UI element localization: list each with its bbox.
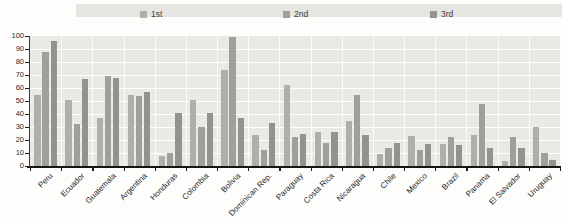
y-axis-tick-label: 10 bbox=[4, 149, 24, 157]
category-gridline bbox=[435, 36, 436, 166]
category-gridline bbox=[373, 36, 374, 166]
bar-2nd-el-salvador bbox=[510, 137, 516, 166]
x-axis-category-label: Honduras bbox=[150, 172, 180, 202]
x-axis-category-label: Panama bbox=[465, 172, 492, 199]
x-axis-tick-mark bbox=[466, 168, 467, 171]
bar-1st-argentina bbox=[128, 95, 134, 167]
x-axis-tick-mark bbox=[124, 168, 125, 171]
category-gridline bbox=[92, 36, 93, 166]
x-axis-category-label: Costa Rica bbox=[302, 172, 335, 205]
y-axis-tick-label: 90 bbox=[4, 45, 24, 53]
y-axis-tick-label: 80 bbox=[4, 58, 24, 66]
legend-label-1st: 1st bbox=[151, 10, 162, 19]
bar-3rd-colombia bbox=[207, 113, 213, 166]
y-axis-tick-label: 40 bbox=[4, 110, 24, 118]
x-axis-tick-mark bbox=[373, 168, 374, 171]
y-axis-tick-label: 100 bbox=[4, 32, 24, 40]
bar-2nd-nicaragua bbox=[354, 95, 360, 167]
legend-swatch-3rd-icon bbox=[430, 11, 437, 18]
x-axis-tick-mark bbox=[279, 168, 280, 171]
bar-2nd-peru bbox=[42, 52, 48, 166]
bar-1st-costa-rica bbox=[315, 132, 321, 166]
x-axis-tick-mark bbox=[311, 168, 312, 171]
x-axis-tick-mark bbox=[217, 168, 218, 171]
bar-3rd-mexico bbox=[425, 144, 431, 166]
bar-1st-bolivia bbox=[221, 70, 227, 166]
bar-2nd-dominican-rep- bbox=[261, 150, 267, 166]
bar-1st-paraguay bbox=[284, 85, 290, 166]
y-axis-line bbox=[29, 36, 30, 167]
legend-swatch-2nd-icon bbox=[283, 11, 290, 18]
category-gridline bbox=[186, 36, 187, 166]
category-gridline bbox=[529, 36, 530, 166]
bar-3rd-el-salvador bbox=[518, 148, 524, 166]
bar-2nd-colombia bbox=[198, 127, 204, 166]
bar-1st-panama bbox=[471, 135, 477, 166]
x-axis-line bbox=[27, 166, 561, 168]
y-gridline bbox=[30, 49, 560, 50]
y-axis-tick-label: 30 bbox=[4, 123, 24, 131]
bar-1st-colombia bbox=[190, 100, 196, 166]
category-gridline bbox=[498, 36, 499, 166]
x-axis-tick-mark bbox=[560, 168, 561, 171]
y-axis-tick-label: 70 bbox=[4, 71, 24, 79]
bar-1st-dominican-rep- bbox=[252, 135, 258, 166]
category-gridline bbox=[248, 36, 249, 166]
bar-3rd-argentina bbox=[144, 92, 150, 166]
bar-3rd-dominican-rep- bbox=[269, 123, 275, 166]
bar-2nd-brazil bbox=[448, 137, 454, 166]
x-axis-category-label: Guatemala bbox=[84, 172, 117, 205]
x-axis-tick-mark bbox=[404, 168, 405, 171]
x-axis-tick-mark bbox=[342, 168, 343, 171]
bar-1st-chile bbox=[377, 154, 383, 166]
legend-item-3rd: 3rd bbox=[430, 10, 453, 19]
bar-2nd-panama bbox=[479, 104, 485, 166]
x-axis-tick-mark bbox=[529, 168, 530, 171]
bar-2nd-ecuador bbox=[74, 124, 80, 166]
x-axis-category-label: Paraguay bbox=[275, 172, 305, 202]
x-axis-tick-mark bbox=[155, 168, 156, 171]
x-axis-category-label: Nicaragua bbox=[335, 172, 366, 203]
x-axis-category-label: Peru bbox=[37, 172, 55, 190]
bar-2nd-mexico bbox=[417, 150, 423, 166]
legend-label-3rd: 3rd bbox=[441, 10, 453, 19]
bar-3rd-ecuador bbox=[82, 79, 88, 166]
bar-1st-honduras bbox=[159, 156, 165, 166]
bar-1st-mexico bbox=[408, 136, 414, 166]
x-axis-tick-mark bbox=[498, 168, 499, 171]
y-axis-tick-label: 60 bbox=[4, 84, 24, 92]
bar-3rd-guatemala bbox=[113, 78, 119, 166]
bar-1st-brazil bbox=[440, 144, 446, 166]
category-gridline bbox=[466, 36, 467, 166]
x-axis-tick-mark bbox=[92, 168, 93, 171]
x-axis-tick-mark bbox=[186, 168, 187, 171]
x-axis-category-label: Brazil bbox=[440, 172, 460, 192]
bar-3rd-panama bbox=[487, 148, 493, 166]
x-axis-tick-mark bbox=[248, 168, 249, 171]
bar-2nd-costa-rica bbox=[323, 143, 329, 166]
bar-3rd-chile bbox=[394, 143, 400, 166]
bar-1st-guatemala bbox=[97, 118, 103, 166]
x-axis-tick-mark bbox=[61, 168, 62, 171]
category-gridline bbox=[217, 36, 218, 166]
category-gridline bbox=[61, 36, 62, 166]
bar-3rd-peru bbox=[51, 41, 57, 166]
x-axis-category-label: Bolivia bbox=[220, 172, 242, 194]
x-axis-category-label: Colombia bbox=[181, 172, 211, 202]
category-gridline bbox=[124, 36, 125, 166]
x-axis-category-label: Argentina bbox=[119, 172, 149, 202]
bar-3rd-brazil bbox=[456, 145, 462, 166]
category-gridline bbox=[279, 36, 280, 166]
bar-3rd-nicaragua bbox=[362, 135, 368, 166]
y-gridline bbox=[30, 62, 560, 63]
x-axis-category-label: Ecuador bbox=[59, 172, 86, 199]
x-axis-category-label: El Salvador bbox=[488, 172, 523, 207]
x-axis-category-label: Chile bbox=[379, 172, 398, 191]
bar-3rd-bolivia bbox=[238, 118, 244, 166]
category-gridline bbox=[311, 36, 312, 166]
bar-2nd-argentina bbox=[136, 96, 142, 166]
category-gridline bbox=[404, 36, 405, 166]
bar-1st-uruguay bbox=[533, 127, 539, 166]
bar-3rd-costa-rica bbox=[331, 132, 337, 166]
y-axis-tick-label: 0 bbox=[4, 162, 24, 170]
